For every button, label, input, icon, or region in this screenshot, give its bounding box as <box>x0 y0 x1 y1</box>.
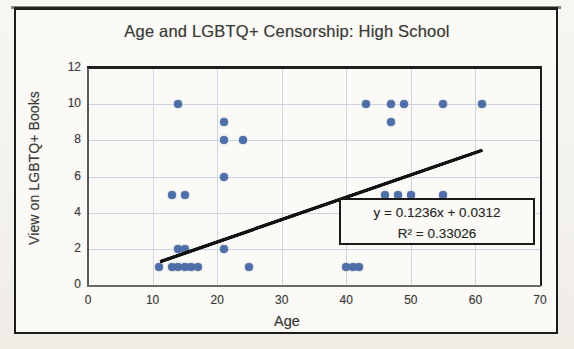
gridline-vertical <box>475 68 476 285</box>
r-squared-value: R² = 0.33026 <box>341 224 533 245</box>
x-tick-label: 60 <box>460 293 490 307</box>
scatter-point <box>174 100 182 108</box>
gridline-vertical <box>346 68 347 285</box>
scatter-point <box>387 100 395 108</box>
gridline-vertical <box>282 68 283 285</box>
y-axis-label: View on LGBTQ+ Books <box>26 58 42 278</box>
y-tick-label: 10 <box>55 96 81 110</box>
x-axis-label: Age <box>0 313 574 329</box>
plot-right-border <box>540 66 542 286</box>
y-axis-line <box>87 68 89 286</box>
scatter-point <box>181 191 189 199</box>
gridline-horizontal <box>88 140 540 141</box>
gridline-horizontal <box>88 249 540 250</box>
y-tick-label: 6 <box>55 169 81 183</box>
gridline-horizontal <box>88 104 540 105</box>
scatter-point <box>355 263 363 271</box>
y-tick-label: 12 <box>55 60 81 74</box>
scatter-point <box>400 100 408 108</box>
scatter-point <box>387 118 395 126</box>
x-tick-label: 10 <box>138 293 168 307</box>
regression-equation: y = 0.1236x + 0.0312 <box>341 203 533 224</box>
x-tick-label: 40 <box>331 293 361 307</box>
plot-area <box>88 68 540 285</box>
scatter-point <box>239 136 247 144</box>
plot-top-border <box>87 66 541 69</box>
scatter-point <box>194 263 202 271</box>
x-tick-label: 50 <box>396 293 426 307</box>
scatter-chart: Age and LGBTQ+ Censorship: High School V… <box>0 0 574 349</box>
y-tick-label: 2 <box>55 241 81 255</box>
chart-title: Age and LGBTQ+ Censorship: High School <box>0 22 574 41</box>
gridline-vertical <box>217 68 218 285</box>
scatter-point <box>220 118 228 126</box>
x-axis-line <box>87 285 541 287</box>
trendline-equation-box: y = 0.1236x + 0.0312 R² = 0.33026 <box>339 198 535 245</box>
x-tick-label: 30 <box>267 293 297 307</box>
y-tick-label: 8 <box>55 132 81 146</box>
scatter-point <box>478 100 486 108</box>
scatter-point <box>155 263 163 271</box>
scatter-point <box>245 263 253 271</box>
y-tick-label: 4 <box>55 205 81 219</box>
scatter-point <box>220 245 228 253</box>
scatter-point <box>439 100 447 108</box>
x-tick-label: 0 <box>73 293 103 307</box>
scatter-point <box>362 100 370 108</box>
gridline-horizontal <box>88 177 540 178</box>
x-tick-label: 20 <box>202 293 232 307</box>
x-tick-label: 70 <box>525 293 555 307</box>
scatter-point <box>220 136 228 144</box>
scatter-point <box>220 173 228 181</box>
gridline-vertical <box>153 68 154 285</box>
y-tick-label: 0 <box>55 277 81 291</box>
scatter-point <box>168 191 176 199</box>
